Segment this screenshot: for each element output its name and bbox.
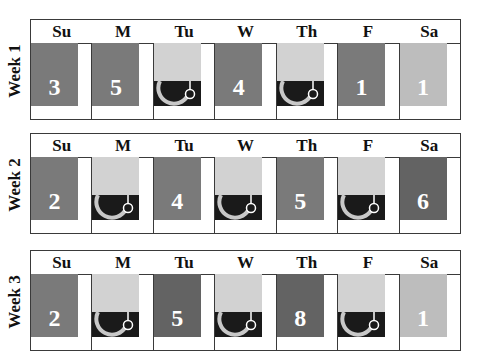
- day-cell: [214, 274, 275, 350]
- day-header: W: [215, 134, 276, 157]
- count-value: 2: [49, 305, 61, 332]
- day-cell: 5: [153, 274, 214, 350]
- week-label-text: Week 3: [5, 275, 25, 328]
- day-cells-row: 2581: [31, 274, 460, 350]
- week-table-2: Week 2SuMTuWThFSa2456: [30, 133, 461, 234]
- hook-with-ring-icon: [338, 274, 385, 337]
- count-box: 1: [338, 43, 385, 106]
- day-cell: 1: [337, 43, 398, 119]
- count-value: 4: [171, 188, 183, 215]
- count-value: 2: [49, 188, 61, 215]
- count-value: 3: [49, 74, 61, 101]
- day-cell: [337, 274, 398, 350]
- day-cell: 6: [399, 157, 460, 233]
- day-cell: 3: [31, 43, 91, 119]
- day-header: Th: [276, 134, 337, 157]
- count-box: 8: [277, 274, 324, 337]
- day-header: F: [337, 20, 398, 43]
- day-cells-row: 35411: [31, 43, 460, 119]
- week-label-text: Week 1: [5, 44, 25, 97]
- day-cell: [91, 157, 152, 233]
- count-value: 1: [417, 305, 429, 332]
- day-header: Su: [31, 251, 92, 274]
- count-box: 4: [215, 43, 262, 106]
- day-header-row: SuMTuWThFSa: [31, 251, 460, 275]
- day-header-row: SuMTuWThFSa: [31, 134, 460, 158]
- day-cell: [276, 43, 337, 119]
- count-value: 5: [110, 74, 122, 101]
- day-cell: 4: [153, 157, 214, 233]
- count-box: 1: [400, 43, 447, 106]
- count-box: 1: [400, 274, 447, 337]
- hook-with-ring-icon: [215, 274, 262, 337]
- day-header: W: [215, 251, 276, 274]
- count-box: 4: [154, 157, 201, 220]
- day-cell: 2: [31, 274, 91, 350]
- count-value: 5: [171, 305, 183, 332]
- count-box: 5: [92, 43, 139, 106]
- hook-with-ring-icon: [338, 157, 385, 220]
- day-header: Th: [276, 20, 337, 43]
- day-header: M: [92, 20, 153, 43]
- day-header: Su: [31, 134, 92, 157]
- count-box: 3: [31, 43, 78, 106]
- hook-with-ring-icon: [277, 43, 324, 106]
- count-box: 2: [31, 157, 78, 220]
- week-table-1: Week 1SuMTuWThFSa35411: [30, 19, 461, 120]
- count-value: 4: [233, 74, 245, 101]
- day-cell: 1: [399, 43, 460, 119]
- day-cell: [91, 274, 152, 350]
- week-table-3: Week 3SuMTuWThFSa2581: [30, 250, 461, 351]
- day-header: W: [215, 20, 276, 43]
- count-box: 2: [31, 274, 78, 337]
- day-cell: 8: [276, 274, 337, 350]
- day-header: M: [92, 251, 153, 274]
- hook-with-ring-icon: [92, 157, 139, 220]
- count-value: 8: [294, 305, 306, 332]
- day-cell: 2: [31, 157, 91, 233]
- day-cell: 4: [214, 43, 275, 119]
- day-header: Tu: [154, 20, 215, 43]
- week-label: Week 2: [1, 134, 29, 235]
- hook-with-ring-icon: [154, 43, 201, 106]
- day-cells-row: 2456: [31, 157, 460, 233]
- day-header: Sa: [399, 134, 460, 157]
- count-value: 1: [417, 74, 429, 101]
- day-header: Tu: [154, 251, 215, 274]
- count-box: 6: [400, 157, 447, 220]
- day-cell: 1: [399, 274, 460, 350]
- day-header: Tu: [154, 134, 215, 157]
- day-cell: [337, 157, 398, 233]
- day-cell: [153, 43, 214, 119]
- day-cell: 5: [91, 43, 152, 119]
- week-label: Week 3: [1, 251, 29, 352]
- day-header: F: [337, 251, 398, 274]
- day-header: Th: [276, 251, 337, 274]
- day-cell: 5: [276, 157, 337, 233]
- week-label: Week 1: [1, 20, 29, 121]
- day-header: Su: [31, 20, 92, 43]
- count-box: 5: [154, 274, 201, 337]
- count-value: 1: [356, 74, 368, 101]
- day-header-row: SuMTuWThFSa: [31, 20, 460, 44]
- count-value: 5: [294, 188, 306, 215]
- day-cell: [214, 157, 275, 233]
- day-header: M: [92, 134, 153, 157]
- count-box: 5: [277, 157, 324, 220]
- hook-with-ring-icon: [92, 274, 139, 337]
- count-value: 6: [417, 188, 429, 215]
- day-header: F: [337, 134, 398, 157]
- day-header: Sa: [399, 20, 460, 43]
- week-label-text: Week 2: [5, 158, 25, 211]
- day-header: Sa: [399, 251, 460, 274]
- hook-with-ring-icon: [215, 157, 262, 220]
